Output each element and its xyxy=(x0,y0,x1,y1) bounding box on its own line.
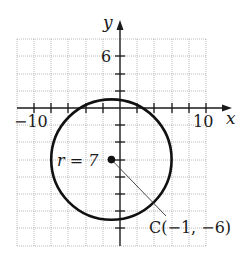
y-axis-label: y xyxy=(102,12,113,32)
circle-graph: y x 6 −10 10 r = 7 C(−1, −6) xyxy=(0,0,244,255)
x-axis xyxy=(17,105,232,112)
x-tick-label-10: 10 xyxy=(193,112,213,131)
center-point xyxy=(108,156,116,164)
radius-label: r = 7 xyxy=(57,151,99,170)
x-axis-label: x xyxy=(226,108,236,128)
y-tick-label-6: 6 xyxy=(101,47,111,66)
center-label: C(−1, −6) xyxy=(149,218,231,237)
x-tick-label-neg10: −10 xyxy=(14,112,48,131)
y-axis-arrow-icon xyxy=(117,20,124,30)
grid xyxy=(17,39,206,246)
y-axis xyxy=(117,20,124,246)
